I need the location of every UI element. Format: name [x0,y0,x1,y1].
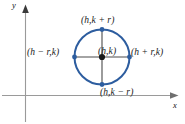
y-axis-arrow-icon [22,5,29,14]
x-axis-label: x [173,101,177,110]
top-point-marker [100,27,105,32]
bottom-point-label: (h,k − r) [100,88,133,98]
right-point-label: (h + r,k) [131,48,163,58]
center-point-label: (h,k) [98,47,116,57]
y-axis-label: y [12,1,16,10]
left-point-label: (h − r,k) [27,48,59,58]
x-axis-arrow-icon [170,92,179,99]
left-point-marker [72,55,77,60]
top-point-label: (h,k + r) [81,16,114,26]
circle-diagram-figure: (h,k + r) (h − r,k) (h,k) (h + r,k) (h,k… [0,0,185,124]
